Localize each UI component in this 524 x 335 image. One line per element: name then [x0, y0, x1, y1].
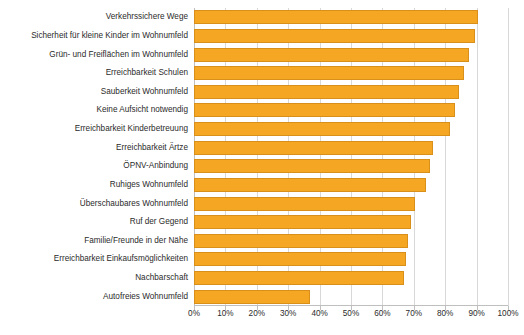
category-label: Nachbarschaft: [135, 274, 188, 282]
category-label: Verkehrssichere Wege: [106, 13, 188, 21]
x-tick-label: 50%: [343, 310, 359, 318]
x-tick-mark: [225, 306, 226, 310]
bar-row: [194, 178, 508, 192]
x-tick-label: 60%: [374, 310, 390, 318]
x-tick-mark: [445, 306, 446, 310]
category-label: Sicherheit für kleine Kinder im Wohnumfe…: [31, 32, 188, 40]
category-label: Erreichbarkeit Ärtze: [116, 144, 188, 152]
x-tick-label: 30%: [280, 310, 296, 318]
x-tick-label: 70%: [406, 310, 422, 318]
bar-row: [194, 141, 508, 155]
x-tick-mark: [477, 306, 478, 310]
category-label: Sauberkeit Wohnumfeld: [101, 88, 188, 96]
category-axis: Verkehrssichere WegeSicherheit für klein…: [0, 8, 188, 306]
bar-row: [194, 215, 508, 229]
x-tick-label: 100%: [498, 310, 519, 318]
x-tick-mark: [414, 306, 415, 310]
x-tick-mark: [288, 306, 289, 310]
bar-row: [194, 252, 508, 266]
bar-row: [194, 290, 508, 304]
x-tick-mark: [382, 306, 383, 310]
category-label: Grün- und Freiflächen im Wohnumfeld: [49, 51, 188, 59]
bar: [194, 271, 404, 285]
bar: [194, 66, 464, 80]
bar: [194, 234, 408, 248]
category-label: Familie/Freunde in der Nähe: [84, 237, 188, 245]
gridline: [508, 8, 509, 306]
x-tick-mark: [320, 306, 321, 310]
category-label: Erreichbarkeit Schulen: [106, 69, 188, 77]
bar-row: [194, 197, 508, 211]
bar-row: [194, 103, 508, 117]
bar: [194, 215, 411, 229]
category-label: Keine Aufsicht notwendig: [97, 106, 189, 114]
category-label: Erreichbarkeit Einkaufsmöglichkeiten: [54, 255, 188, 263]
category-label: Ruhiges Wohnumfeld: [110, 181, 188, 189]
x-tick-label: 40%: [311, 310, 327, 318]
x-tick-mark: [351, 306, 352, 310]
x-tick-mark: [194, 306, 195, 310]
x-tick-label: 80%: [437, 310, 453, 318]
bar-chart: Verkehrssichere WegeSicherheit für klein…: [0, 0, 524, 335]
bar-row: [194, 85, 508, 99]
plot-area: [194, 8, 508, 306]
bar: [194, 159, 430, 173]
bar-row: [194, 234, 508, 248]
bar: [194, 197, 415, 211]
bar-row: [194, 10, 508, 24]
x-tick-label: 90%: [468, 310, 484, 318]
bar: [194, 85, 459, 99]
x-tick-label: 0%: [188, 310, 200, 318]
bar-row: [194, 122, 508, 136]
bar-rows: [194, 8, 508, 306]
bar: [194, 103, 455, 117]
bar: [194, 290, 310, 304]
x-tick-mark: [508, 306, 509, 310]
category-label: Autofreies Wohnumfeld: [103, 293, 188, 301]
category-label: Erreichbarkeit Kinderbetreuung: [75, 125, 188, 133]
bar-row: [194, 271, 508, 285]
bar: [194, 178, 426, 192]
category-label: Überschaubares Wohnumfeld: [80, 200, 188, 208]
bar-row: [194, 66, 508, 80]
category-label: ÖPNV-Anbindung: [123, 162, 188, 170]
bar: [194, 29, 475, 43]
bar: [194, 122, 450, 136]
x-axis-ticks: 0%10%20%30%40%50%60%70%80%90%100%: [194, 310, 508, 326]
bar-row: [194, 48, 508, 62]
bar-row: [194, 159, 508, 173]
x-tick-label: 20%: [249, 310, 265, 318]
category-label: Ruf der Gegend: [130, 218, 188, 226]
x-tick-mark: [257, 306, 258, 310]
bar-row: [194, 29, 508, 43]
x-tick-label: 10%: [217, 310, 233, 318]
bar: [194, 48, 469, 62]
bar: [194, 252, 406, 266]
bar: [194, 141, 433, 155]
bar: [194, 10, 478, 24]
